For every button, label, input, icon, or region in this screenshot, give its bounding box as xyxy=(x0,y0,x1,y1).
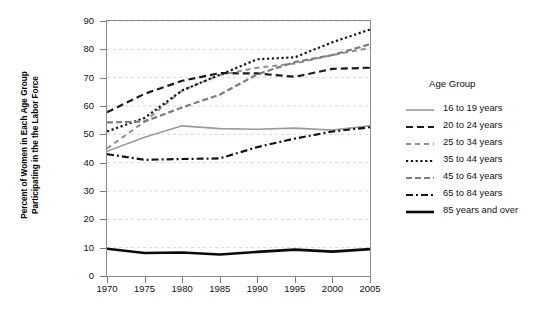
legend-item[interactable]: 85 years and over xyxy=(405,202,535,217)
x-tick-mark xyxy=(370,277,371,283)
series-line xyxy=(107,48,370,149)
y-tick-label: 30 xyxy=(66,185,94,196)
series-line xyxy=(107,249,370,255)
legend-item[interactable]: 16 to 19 years xyxy=(405,100,535,115)
x-tick-label: 1995 xyxy=(275,283,315,294)
y-tick-label: 40 xyxy=(66,157,94,168)
y-axis-title: Percent of Women in Each Age Group Parti… xyxy=(0,0,60,290)
legend-item[interactable]: 20 to 24 years xyxy=(405,117,535,132)
x-tick-mark xyxy=(182,277,183,283)
x-tick-mark xyxy=(332,277,333,283)
series-canvas xyxy=(107,21,370,276)
legend-item[interactable]: 35 to 44 years xyxy=(405,151,535,166)
legend-item[interactable]: 25 to 34 years xyxy=(405,134,535,149)
legend-label: 16 to 19 years xyxy=(443,102,502,113)
legend-swatch xyxy=(405,187,435,199)
x-tick-mark xyxy=(220,277,221,283)
legend-item[interactable]: 45 to 64 years xyxy=(405,168,535,183)
legend-item[interactable]: 65 to 84 years xyxy=(405,185,535,200)
y-tick-label: 90 xyxy=(66,15,94,26)
x-tick-label: 2005 xyxy=(350,283,390,294)
legend-swatch xyxy=(405,204,435,216)
chart-root: Percent of Women in Each Age Group Parti… xyxy=(0,0,541,312)
legend: Age Group 16 to 19 years20 to 24 years25… xyxy=(405,78,535,219)
legend-items: 16 to 19 years20 to 24 years25 to 34 yea… xyxy=(405,100,535,217)
legend-label: 85 years and over xyxy=(443,204,518,215)
y-tick-label: 60 xyxy=(66,100,94,111)
x-tick-label: 1985 xyxy=(200,283,240,294)
y-axis-title-line-1: Percent of Women in Each Age Group xyxy=(19,71,30,218)
x-tick-label: 1975 xyxy=(125,283,165,294)
y-tick-label: 10 xyxy=(66,242,94,253)
legend-label: 25 to 34 years xyxy=(443,136,502,147)
legend-swatch xyxy=(405,153,435,165)
y-tick-label: 70 xyxy=(66,72,94,83)
legend-swatch xyxy=(405,170,435,182)
series-line xyxy=(107,126,370,152)
x-tick-mark xyxy=(257,277,258,283)
x-tick-label: 2000 xyxy=(312,283,352,294)
legend-label: 45 to 64 years xyxy=(443,170,502,181)
legend-label: 20 to 24 years xyxy=(443,119,502,130)
x-tick-mark xyxy=(145,277,146,283)
x-tick-mark xyxy=(295,277,296,283)
x-tick-label: 1970 xyxy=(87,283,127,294)
y-tick-label: 0 xyxy=(66,270,94,281)
legend-label: 35 to 44 years xyxy=(443,153,502,164)
series-line xyxy=(107,68,370,112)
y-tick-label: 20 xyxy=(66,213,94,224)
y-tick-label: 80 xyxy=(66,43,94,54)
x-tick-mark xyxy=(107,277,108,283)
legend-label: 65 to 84 years xyxy=(443,187,502,198)
legend-title: Age Group xyxy=(429,78,535,89)
x-tick-label: 1990 xyxy=(237,283,277,294)
plot-area xyxy=(106,20,371,277)
legend-swatch xyxy=(405,136,435,148)
legend-swatch xyxy=(405,102,435,114)
series-line xyxy=(107,127,370,160)
legend-swatch xyxy=(405,119,435,131)
series-line xyxy=(107,44,370,122)
y-axis-title-line-2: Participating in the the Labor Force xyxy=(30,71,41,218)
series-line xyxy=(107,30,370,132)
y-tick-label: 50 xyxy=(66,128,94,139)
x-tick-label: 1980 xyxy=(162,283,202,294)
